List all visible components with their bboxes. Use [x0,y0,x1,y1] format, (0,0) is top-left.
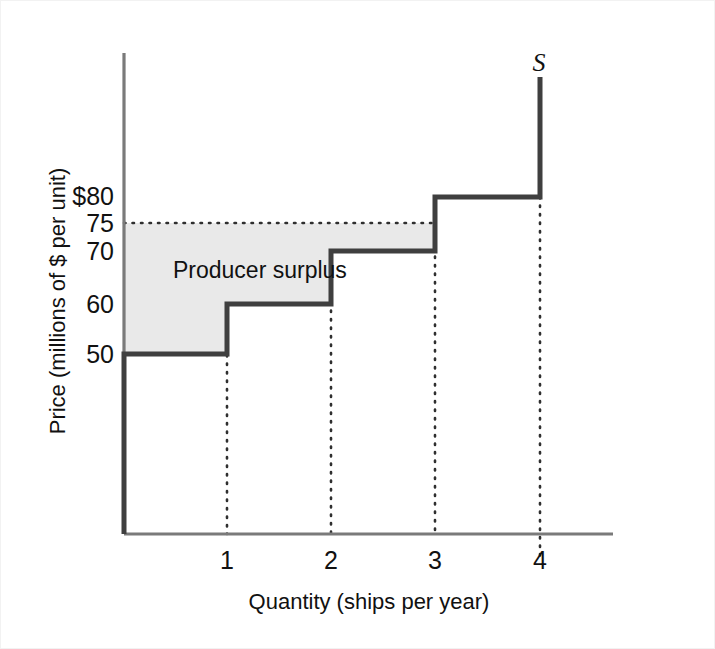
x-tick-label-3: 3 [428,546,442,574]
y-tick-label-80: $80 [72,182,114,210]
x-tick-label-4: 4 [533,546,547,574]
producer-surplus-chart: $80 75 70 60 50 1 2 3 4 Quantity (ships … [1,1,715,649]
x-tick-label-1: 1 [220,546,234,574]
supply-curve-label: S [533,48,546,77]
y-tick-label-50: 50 [86,340,114,368]
figure-container: $80 75 70 60 50 1 2 3 4 Quantity (ships … [0,0,715,649]
producer-surplus-label: Producer surplus [173,257,347,283]
y-axis-title: Price (millions of $ per unit) [45,168,70,435]
y-tick-label-60: 60 [86,290,114,318]
x-axis-title: Quantity (ships per year) [249,589,490,614]
y-tick-label-75: 75 [86,209,114,237]
x-tick-label-2: 2 [324,546,338,574]
y-tick-label-70: 70 [86,237,114,265]
producer-surplus-fill [124,223,435,354]
